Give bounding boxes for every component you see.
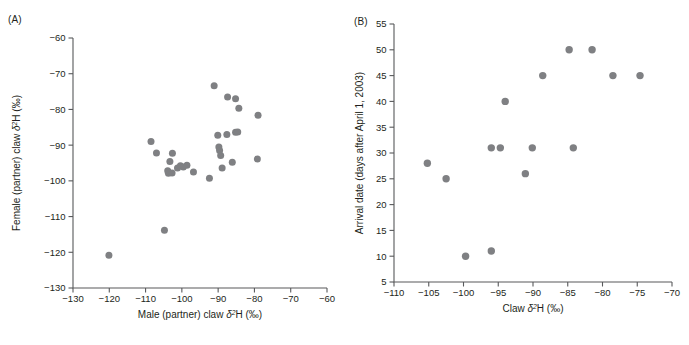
data-point — [190, 168, 197, 175]
svg-text:−70: −70 — [49, 68, 65, 79]
data-point — [161, 227, 168, 234]
data-point — [254, 156, 261, 163]
panel-b-plot: −110−105−100−95−90−85−80−75−705101520253… — [345, 0, 689, 345]
svg-text:−70: −70 — [664, 287, 680, 298]
data-point — [609, 72, 616, 79]
svg-text:−75: −75 — [629, 287, 645, 298]
svg-text:−105: −105 — [418, 287, 439, 298]
svg-text:−80: −80 — [594, 287, 610, 298]
svg-text:Male (partner) claw δ2H (‰): Male (partner) claw δ2H (‰) — [138, 309, 262, 321]
data-point — [223, 131, 230, 138]
svg-text:−110: −110 — [384, 287, 405, 298]
svg-text:Arrival date (days after April: Arrival date (days after April 1, 2003) — [354, 72, 365, 234]
svg-text:5: 5 — [381, 276, 386, 287]
svg-text:−90: −90 — [49, 140, 65, 151]
data-point — [224, 93, 231, 100]
data-point — [588, 46, 595, 53]
data-point — [206, 175, 213, 182]
svg-text:−70: −70 — [283, 293, 299, 304]
data-point — [214, 132, 221, 139]
svg-text:30: 30 — [376, 147, 387, 158]
svg-text:−120: −120 — [99, 293, 120, 304]
data-point — [169, 170, 176, 177]
data-point — [497, 144, 504, 151]
figure-container: (A) −130−120−110−100−90−80−70−60−130−120… — [0, 0, 689, 345]
svg-text:55: 55 — [376, 18, 387, 29]
svg-text:Claw δ2H (‰): Claw δ2H (‰) — [502, 303, 563, 315]
panel-a: (A) −130−120−110−100−90−80−70−60−130−120… — [0, 0, 345, 345]
data-point — [488, 247, 495, 254]
svg-text:40: 40 — [376, 96, 387, 107]
svg-text:−90: −90 — [525, 287, 541, 298]
data-point — [183, 162, 190, 169]
data-point — [234, 128, 241, 135]
data-point — [148, 138, 155, 145]
svg-text:−85: −85 — [560, 287, 576, 298]
data-point — [166, 158, 173, 165]
data-point — [229, 159, 236, 166]
data-point — [565, 46, 572, 53]
data-point — [169, 150, 176, 157]
panel-a-plot: −130−120−110−100−90−80−70−60−130−120−110… — [0, 0, 345, 345]
data-point — [235, 105, 242, 112]
data-point — [570, 144, 577, 151]
svg-text:35: 35 — [376, 122, 387, 133]
svg-text:−130: −130 — [44, 282, 65, 293]
svg-text:20: 20 — [376, 199, 387, 210]
data-point — [424, 160, 431, 167]
svg-text:−110: −110 — [135, 293, 156, 304]
data-point — [255, 112, 262, 119]
data-point — [522, 170, 529, 177]
svg-text:−100: −100 — [44, 175, 65, 186]
data-point — [442, 175, 449, 182]
data-point — [105, 252, 112, 259]
data-point — [529, 144, 536, 151]
svg-text:−130: −130 — [62, 293, 83, 304]
svg-text:−60: −60 — [49, 32, 65, 43]
svg-text:−60: −60 — [319, 293, 335, 304]
data-point — [232, 95, 239, 102]
panel-b: (B) −110−105−100−95−90−85−80−75−70510152… — [345, 0, 689, 345]
svg-text:−100: −100 — [453, 287, 474, 298]
data-point — [211, 82, 218, 89]
svg-text:50: 50 — [376, 44, 387, 55]
data-point — [502, 98, 509, 105]
svg-text:−110: −110 — [45, 211, 66, 222]
svg-text:10: 10 — [376, 251, 387, 262]
svg-text:15: 15 — [376, 225, 387, 236]
data-point — [217, 152, 224, 159]
data-point — [462, 253, 469, 260]
svg-text:25: 25 — [376, 173, 387, 184]
data-point — [219, 165, 226, 172]
svg-text:−90: −90 — [210, 293, 226, 304]
data-point — [636, 72, 643, 79]
svg-text:−80: −80 — [246, 293, 262, 304]
data-point — [539, 72, 546, 79]
svg-text:45: 45 — [376, 70, 387, 81]
svg-text:Female (partner) claw δ2H (‰): Female (partner) claw δ2H (‰) — [11, 95, 23, 231]
svg-text:−100: −100 — [171, 293, 192, 304]
svg-text:−120: −120 — [44, 247, 65, 258]
data-point — [488, 144, 495, 151]
data-point — [153, 150, 160, 157]
svg-text:−95: −95 — [490, 287, 506, 298]
svg-text:−80: −80 — [49, 104, 65, 115]
